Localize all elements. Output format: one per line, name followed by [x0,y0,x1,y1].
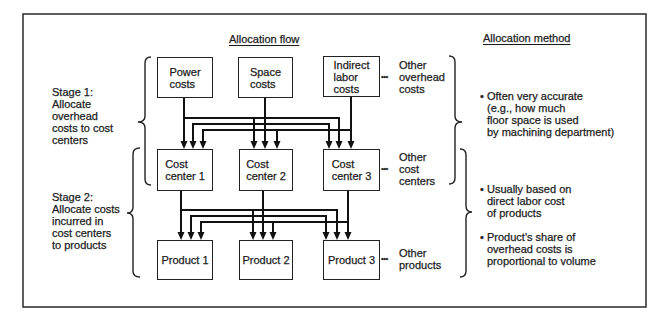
stage2-flow-lines [181,191,348,233]
stage1-left-brace [138,57,151,185]
box-label-line: Cost [165,158,205,170]
label-line: costs [399,83,445,95]
method-line: by machining department) [487,126,614,138]
stage2-label-line: incurred in [52,215,120,227]
cost-center-3-box: Cost center 3 [323,149,380,191]
method-bullet-2: • Usually based on direct labor cost of … [480,183,571,219]
method-line: (e.g., how much [487,102,614,114]
stage1-right-brace [449,56,462,184]
stage1-label-line: centers [52,134,113,146]
cost-center-2-box: Cost center 2 [239,149,293,191]
stage2-label-line: to products [52,239,120,251]
other-products-label: Other products [399,247,441,271]
method-line: Product's share of [487,231,596,243]
box-label-line: Cost [332,158,372,170]
bullet-icon: • [480,90,484,102]
box-label-line: Space [250,66,281,78]
stage1-label-line: overhead [52,110,113,122]
method-line: of products [487,207,571,219]
box-label-line: center 2 [246,170,286,182]
other-overhead-costs-label: Other overhead costs [399,59,445,95]
bullet-icon: • [480,183,484,195]
label-line: Other [399,247,441,259]
method-line: Often very accurate [487,90,614,102]
box-label: Product 2 [242,254,289,266]
allocation-flow-heading: Allocation flow [229,33,299,45]
stage2-label: Stage 2: Allocate costs incurred in cost… [52,191,120,251]
box-label-line: costs [169,78,200,90]
box-label: Product 1 [161,254,208,266]
stage2-label-line: Allocate costs [52,203,120,215]
label-line: cost [399,163,435,175]
stage1-flow-lines [184,97,351,142]
box-label: Product 3 [328,254,375,266]
box-label-line: Indirect [333,59,369,71]
ellipsis-icon: ••• [381,165,388,173]
box-label-line: costs [333,83,369,95]
box-label-line: Cost [246,158,286,170]
method-bullet-3: • Product's share of overhead costs is p… [480,231,596,267]
space-costs-box: Space costs [238,57,293,98]
stage1-label: Stage 1: Allocate overhead costs to cost… [52,86,113,146]
product-2-box: Product 2 [239,240,293,280]
box-label-line: center 3 [332,170,372,182]
stage2-left-brace [127,148,140,277]
box-label-line: center 1 [165,170,205,182]
method-bullet-1: • Often very accurate (e.g., how much fl… [480,90,614,138]
label-line: Other [399,151,435,163]
box-label-line: Power [169,66,200,78]
label-line: products [399,259,441,271]
indirect-labor-costs-box: Indirect labor costs [323,56,380,97]
label-line: Other [399,59,445,71]
product-3-box: Product 3 [323,240,380,280]
other-cost-centers-label: Other cost centers [399,151,435,187]
stage2-right-brace [460,149,472,277]
product-1-box: Product 1 [157,240,213,280]
label-line: overhead [399,71,445,83]
label-line: centers [399,175,435,187]
method-line: overhead costs is [487,243,596,255]
bullet-icon: • [480,231,484,243]
stage1-label-line: Stage 1: [52,86,113,98]
stage2-arrowheads [178,232,352,240]
stage1-arrowheads [181,141,355,149]
allocation-method-heading: Allocation method [483,32,570,44]
method-line: direct labor cost [487,195,571,207]
box-label-line: labor [333,71,369,83]
ellipsis-icon: ••• [381,73,388,81]
method-line: proportional to volume [487,255,596,267]
stage1-label-line: Allocate [52,98,113,110]
stage2-label-line: Stage 2: [52,191,120,203]
method-line: Usually based on [487,183,571,195]
stage1-label-line: costs to cost [52,122,113,134]
stage2-label-line: cost centers [52,227,120,239]
method-line: floor space is used [487,114,614,126]
power-costs-box: Power costs [157,57,213,98]
ellipsis-icon: ••• [381,255,388,263]
cost-center-1-box: Cost center 1 [157,149,213,191]
cost-allocation-diagram: Allocation flow Allocation method Stage … [0,0,667,316]
box-label-line: costs [250,78,281,90]
